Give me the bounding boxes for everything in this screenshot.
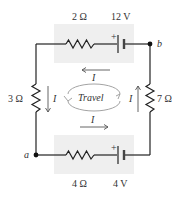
current-label-top: I <box>91 72 96 83</box>
label-3ohm: 3 Ω <box>8 93 23 104</box>
battery-12v-plus: + <box>111 31 117 42</box>
label-4v: 4 V <box>113 178 128 189</box>
travel-label: Travel <box>78 92 104 103</box>
label-2ohm: 2 Ω <box>72 11 87 22</box>
label-12v: 12 V <box>111 11 131 22</box>
node-b-label: b <box>157 38 162 49</box>
resistor-3ohm <box>32 84 40 112</box>
label-4ohm: 4 Ω <box>72 178 87 189</box>
current-label-bottom: I <box>90 114 95 125</box>
node-a-label: a <box>24 149 29 160</box>
battery-4v-plus: + <box>111 142 117 153</box>
current-label-left: I <box>52 93 57 104</box>
current-label-right: I <box>128 93 133 104</box>
circuit-diagram: + + b a 2 Ω 12 V 4 Ω 4 V 3 Ω 7 Ω I I I I… <box>0 0 184 197</box>
label-7ohm: 7 Ω <box>157 93 172 104</box>
node-a <box>34 153 39 158</box>
node-b <box>148 42 153 47</box>
resistor-7ohm <box>146 84 154 112</box>
